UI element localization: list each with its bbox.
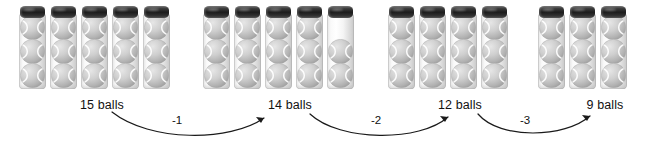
tennis-ball — [389, 63, 414, 88]
tennis-ball — [539, 39, 564, 64]
tennis-ball-icon — [51, 15, 76, 40]
tube-ball-stack — [203, 15, 230, 89]
ball-tube — [19, 6, 46, 89]
tennis-ball-icon — [389, 39, 414, 64]
tennis-ball-icon — [451, 39, 476, 64]
tube-ball-stack — [569, 15, 596, 89]
tennis-ball — [539, 63, 564, 88]
tube-ball-stack — [600, 15, 627, 89]
tennis-ball — [235, 63, 260, 88]
tennis-ball — [113, 15, 138, 40]
tennis-ball-icon — [113, 15, 138, 40]
tennis-ball-icon — [235, 15, 260, 40]
tennis-ball-icon — [20, 39, 45, 64]
tennis-ball — [235, 15, 260, 40]
tube-cap-icon — [328, 6, 353, 18]
tube-cap-icon — [266, 6, 291, 18]
tennis-ball — [266, 63, 291, 88]
figure-canvas: 15 balls 14 balls 12 balls 9 balls -1 -2… — [0, 0, 651, 148]
tube-cap-icon — [297, 6, 322, 18]
tennis-ball-icon — [144, 63, 169, 88]
tennis-ball-icon — [82, 63, 107, 88]
tube-ball-stack — [327, 15, 354, 89]
ball-tube — [538, 6, 565, 89]
tennis-ball — [144, 15, 169, 40]
tennis-ball — [51, 15, 76, 40]
tennis-ball-icon — [451, 15, 476, 40]
tennis-ball — [451, 39, 476, 64]
tennis-ball — [570, 63, 595, 88]
tennis-ball-icon — [482, 15, 507, 40]
tennis-ball-icon — [482, 63, 507, 88]
arrow-head-icon-2 — [440, 116, 448, 122]
tube-cap-icon — [601, 6, 626, 18]
tennis-ball-icon — [51, 39, 76, 64]
tennis-ball-icon — [113, 39, 138, 64]
tube-ball-stack — [481, 15, 508, 89]
count-label-group-3: 12 balls — [438, 98, 482, 112]
tennis-ball — [20, 63, 45, 88]
tube-cap-icon — [20, 6, 45, 18]
tennis-ball — [482, 63, 507, 88]
tennis-ball-icon — [266, 15, 291, 40]
tube-ball-stack — [265, 15, 292, 89]
tube-cap-icon — [204, 6, 229, 18]
tube-ball-stack — [81, 15, 108, 89]
tube-cap-icon — [51, 6, 76, 18]
tennis-ball — [482, 39, 507, 64]
tube-ball-stack — [296, 15, 323, 89]
ball-tube — [265, 6, 292, 89]
tennis-ball — [539, 15, 564, 40]
tennis-ball-icon — [204, 15, 229, 40]
tennis-ball-icon — [389, 63, 414, 88]
tube-cap-icon — [420, 6, 445, 18]
tube-cap-icon — [570, 6, 595, 18]
tennis-ball-icon — [266, 39, 291, 64]
tube-cap-icon — [235, 6, 260, 18]
tube-group-3 — [388, 6, 508, 89]
tennis-ball-icon — [420, 63, 445, 88]
tennis-ball-icon — [82, 39, 107, 64]
tennis-ball — [297, 39, 322, 64]
tennis-ball — [328, 63, 353, 88]
tennis-ball-icon — [266, 63, 291, 88]
tennis-ball — [420, 15, 445, 40]
arrow-curve-3 — [478, 114, 590, 133]
tennis-ball — [482, 15, 507, 40]
tennis-ball-icon — [113, 63, 138, 88]
tennis-ball-icon — [389, 15, 414, 40]
tennis-ball-icon — [297, 15, 322, 40]
tennis-ball — [601, 63, 626, 88]
tennis-ball-icon — [539, 39, 564, 64]
tennis-ball-icon — [20, 63, 45, 88]
tennis-ball-icon — [20, 15, 45, 40]
tennis-ball-icon — [328, 63, 353, 88]
ball-tube — [327, 6, 354, 89]
tube-ball-stack — [419, 15, 446, 89]
tennis-ball-icon — [204, 63, 229, 88]
tube-cap-icon — [482, 6, 507, 18]
tennis-ball-icon — [601, 39, 626, 64]
tennis-ball-icon — [539, 63, 564, 88]
tennis-ball — [601, 15, 626, 40]
tennis-ball — [144, 63, 169, 88]
tennis-ball — [82, 63, 107, 88]
tennis-ball-icon — [570, 63, 595, 88]
count-label-group-2: 14 balls — [268, 98, 312, 112]
tennis-ball-icon — [451, 63, 476, 88]
tennis-ball-icon — [144, 15, 169, 40]
tennis-ball-icon — [204, 39, 229, 64]
tennis-ball — [297, 63, 322, 88]
ball-tube — [481, 6, 508, 89]
tennis-ball — [204, 39, 229, 64]
tennis-ball — [420, 63, 445, 88]
tennis-ball — [82, 15, 107, 40]
tube-ball-stack — [19, 15, 46, 89]
ball-tube — [388, 6, 415, 89]
tennis-ball — [570, 39, 595, 64]
tennis-ball — [113, 39, 138, 64]
tennis-ball-icon — [235, 63, 260, 88]
tube-cap-icon — [451, 6, 476, 18]
tennis-ball — [266, 15, 291, 40]
ball-tube — [234, 6, 261, 89]
